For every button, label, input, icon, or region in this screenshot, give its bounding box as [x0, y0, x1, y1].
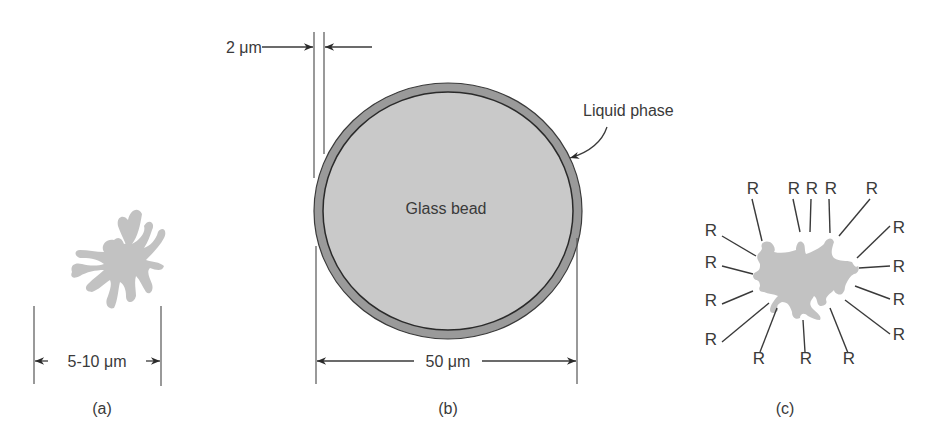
r-group-label: R: [893, 325, 905, 344]
thickness-label: 2 μm: [226, 39, 262, 56]
r-group-label: R: [843, 349, 855, 368]
liquid-phase-label: Liquid phase: [583, 102, 674, 119]
caption-b: (b): [438, 400, 458, 417]
r-group-bond: [829, 199, 830, 233]
r-group-label: R: [753, 349, 765, 368]
bonded-phase-particle: [753, 238, 859, 320]
porous-particle: [71, 210, 165, 309]
r-group-label: R: [806, 179, 818, 198]
r-group-bond: [722, 303, 769, 342]
r-group-label: R: [800, 349, 812, 368]
r-group-bond: [803, 320, 805, 352]
r-group-bond: [722, 291, 753, 304]
panel-c: RRRRRRRRRRRRRRRR (c): [705, 179, 905, 417]
r-group-label: R: [705, 253, 717, 272]
panel-b: 2 μm Glass bead Liquid phase 50 μm (b): [226, 32, 674, 417]
r-group-label: R: [705, 330, 717, 349]
r-group-label: R: [893, 218, 905, 237]
r-group-label: R: [893, 290, 905, 309]
r-group-bond: [857, 226, 890, 258]
figure-canvas: 5-10 μm (a) 2 μm Glass bead Liquid phase…: [0, 0, 926, 442]
r-group-label: R: [705, 291, 717, 310]
r-group-bond: [722, 266, 753, 274]
r-group-label: R: [788, 179, 800, 198]
r-group-bond: [859, 266, 890, 268]
r-group-bond: [760, 308, 777, 352]
r-group-label: R: [866, 179, 878, 198]
panel-a: 5-10 μm (a): [34, 210, 165, 417]
r-group-bond: [810, 199, 811, 232]
r-group-label: R: [893, 257, 905, 276]
r-group-bond: [793, 199, 800, 232]
r-group-bond: [845, 300, 890, 334]
r-group-label: R: [747, 179, 759, 198]
dimension-label-a: 5-10 μm: [67, 353, 126, 370]
r-group-bond: [830, 308, 848, 353]
caption-a: (a): [92, 400, 112, 417]
liquid-phase-leader-arrow: [570, 127, 607, 158]
r-group-label: R: [825, 179, 837, 198]
glass-bead-label: Glass bead: [406, 200, 487, 217]
r-group-bond: [722, 236, 756, 256]
r-group-bond: [839, 199, 870, 236]
r-group-bond: [855, 286, 890, 299]
caption-c: (c): [776, 400, 795, 417]
r-group-bond: [752, 199, 762, 241]
diameter-label: 50 μm: [426, 353, 471, 370]
r-group-label: R: [705, 221, 717, 240]
